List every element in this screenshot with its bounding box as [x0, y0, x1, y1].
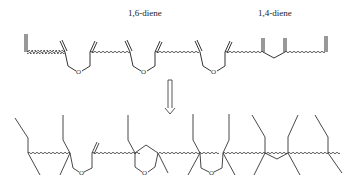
- reaction-arrow-icon: [165, 80, 175, 114]
- top-polymer: [25, 34, 327, 71]
- bottom-oxygen-atoms: O O O: [79, 169, 214, 177]
- oxygen-atom: O: [76, 68, 81, 76]
- ring-oxygen-atom: O: [142, 169, 147, 177]
- oxygen-atom: O: [211, 68, 216, 76]
- reaction-diagram: O O O: [0, 0, 353, 184]
- oxygen-atom: O: [209, 169, 214, 177]
- oxygen-atom: O: [79, 169, 84, 177]
- oxygen-atom: O: [141, 68, 146, 76]
- top-oxygen-atoms: O O O: [76, 68, 216, 76]
- bottom-network: [15, 114, 342, 175]
